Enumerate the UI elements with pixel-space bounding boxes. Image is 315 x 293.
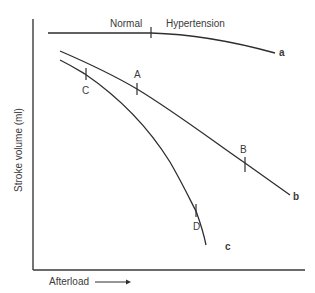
curve-c-label: c bbox=[225, 241, 231, 252]
x-axis-arrow-icon bbox=[95, 280, 131, 285]
marker-C-label: C bbox=[82, 85, 89, 96]
marker-D-label: D bbox=[193, 221, 200, 232]
marker-A-label: A bbox=[134, 69, 141, 80]
hypertension-label: Hypertension bbox=[166, 18, 225, 29]
curve-a-label: a bbox=[279, 47, 285, 58]
x-axis-label: Afterload bbox=[49, 276, 89, 287]
normal-label: Normal bbox=[110, 18, 142, 29]
afterload-stroke-volume-diagram: Stroke volume (ml) Afterload Normal Hype… bbox=[0, 0, 315, 293]
marker-B-label: B bbox=[240, 144, 247, 155]
curve-b-label: b bbox=[293, 191, 299, 202]
y-axis-label: Stroke volume (ml) bbox=[13, 108, 24, 192]
curve-b bbox=[60, 51, 290, 195]
curve-a bbox=[48, 33, 275, 53]
